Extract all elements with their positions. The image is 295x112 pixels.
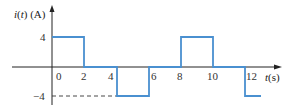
x-tick-2: 2 bbox=[81, 70, 87, 82]
x-axis-arrow-icon bbox=[274, 65, 282, 70]
x-tick-4: 4 bbox=[108, 70, 114, 82]
current-waveform bbox=[52, 37, 261, 96]
chart: 4 −4 0 2 4 6 8 10 12 i(t) (A) t(s) bbox=[0, 0, 295, 112]
x-tick-12: 12 bbox=[246, 70, 257, 82]
y-tick-neg4: −4 bbox=[33, 90, 45, 102]
y-axis-label: i(t) (A) bbox=[14, 8, 46, 21]
y-axis-arrow-icon bbox=[50, 5, 55, 12]
x-tick-0: 0 bbox=[56, 70, 62, 82]
x-tick-6: 6 bbox=[151, 70, 157, 82]
y-tick-4: 4 bbox=[40, 31, 46, 43]
x-tick-10: 10 bbox=[207, 70, 219, 82]
x-tick-8: 8 bbox=[177, 70, 183, 82]
x-axis-label: t(s) bbox=[265, 71, 280, 84]
